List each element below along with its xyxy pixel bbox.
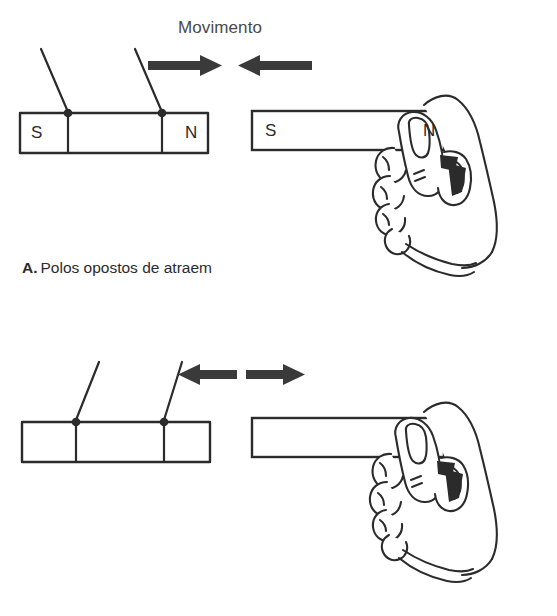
- motion-arrow-right-a: [238, 55, 312, 76]
- thread-anchor-left: [64, 109, 73, 118]
- motion-arrow-left-a: [148, 55, 222, 76]
- panel-a: Movimento S N S N A.Polos opostos de atr…: [0, 0, 557, 306]
- motion-arrow-left-b: [178, 364, 237, 385]
- suspension-thread-left: [76, 362, 99, 420]
- panel-b: Movimento S N N S B.Polos semelhantes se…: [0, 310, 557, 616]
- caption-a-letter: A.: [22, 259, 38, 276]
- suspension-thread-left: [41, 49, 68, 112]
- hand-magnet-a-left-pole: S: [265, 122, 276, 139]
- hand-magnet-a-right-pole: N: [423, 122, 435, 139]
- panel-b-illustration: [0, 310, 557, 616]
- suspension-thread-right: [164, 362, 182, 420]
- thread-anchor-left: [72, 418, 81, 427]
- thread-anchor-right: [158, 109, 167, 118]
- suspended-magnet-a-left-pole: S: [31, 124, 42, 141]
- magnet-poles-figure: Movimento S N S N A.Polos opostos de atr…: [0, 0, 557, 616]
- suspended-magnet-a-right-pole: N: [185, 124, 197, 141]
- suspended-magnet-b: [22, 422, 210, 462]
- suspended-magnet-a: [20, 113, 208, 153]
- caption-a: A.Polos opostos de atraem: [22, 259, 212, 277]
- motion-arrow-right-b: [246, 364, 305, 385]
- thread-anchor-right: [160, 418, 169, 427]
- suspension-thread-right: [135, 49, 162, 112]
- motion-label-a: Movimento: [178, 18, 262, 38]
- caption-a-text: Polos opostos de atraem: [41, 259, 212, 276]
